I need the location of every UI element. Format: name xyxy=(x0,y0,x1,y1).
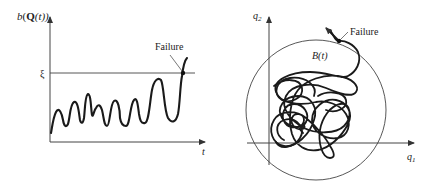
x-axis-label-left: t xyxy=(202,146,205,157)
escape-arrow xyxy=(326,28,339,41)
y-axis-label: b(Q(t)) xyxy=(17,10,49,23)
failure-pointer xyxy=(170,55,182,71)
region-label: B(t) xyxy=(312,50,328,62)
threshold-label: ξ xyxy=(40,68,45,80)
q2-axis-label: q2 xyxy=(253,10,262,23)
figure: b(Q(t)) ξ Failure t Failure B(t) q2 q1 xyxy=(0,0,433,188)
failure-point xyxy=(181,71,185,75)
failure-pointer-right xyxy=(340,32,348,40)
failure-label-left: Failure xyxy=(155,41,184,52)
failure-label-right: Failure xyxy=(350,26,379,37)
time-series-panel: b(Q(t)) ξ Failure t xyxy=(17,10,205,157)
trajectory-curve xyxy=(51,58,187,133)
phase-space-panel: Failure B(t) q2 q1 xyxy=(246,10,416,180)
q1-axis-label: q1 xyxy=(407,151,416,164)
